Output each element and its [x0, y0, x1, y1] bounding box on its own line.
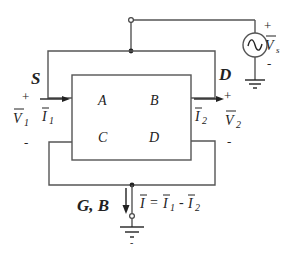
- top-wire: [129, 18, 255, 54]
- ground-icon: [120, 227, 144, 237]
- ac-voltage-source-icon: [243, 33, 267, 88]
- source-voltage-label: V s: [265, 36, 280, 55]
- svg-text:1: 1: [170, 202, 175, 213]
- i2-arrow-icon: [194, 96, 224, 102]
- ground-minus: -: [130, 237, 133, 248]
- source-plus: +: [264, 18, 271, 33]
- region-label-b: B: [150, 93, 159, 108]
- svg-text:V: V: [265, 38, 275, 53]
- ground-current-arrow-icon: [123, 188, 130, 214]
- i1-arrow-icon: [40, 96, 70, 102]
- port2-voltage-label: V 2: [225, 111, 241, 130]
- open-terminal-icon: [129, 18, 134, 23]
- port1-plus: +: [22, 89, 29, 104]
- svg-text:I: I: [41, 109, 48, 124]
- svg-text:1: 1: [24, 117, 29, 128]
- svg-text:I: I: [187, 196, 194, 211]
- port1-current-label: I 1: [41, 108, 54, 126]
- device-box: [72, 75, 191, 160]
- circuit-diagram: A B C D S D G, B + - V 1 I 1 + - I 2 V 2…: [0, 0, 291, 253]
- svg-text:2: 2: [195, 202, 200, 213]
- port1-voltage-label: V 1: [13, 109, 29, 128]
- gate-bulk-wire: [49, 141, 215, 227]
- svg-text:I: I: [139, 196, 146, 211]
- ground-current-equation: I = I 1 - I 2: [139, 195, 200, 213]
- region-label-d: D: [148, 130, 159, 145]
- terminal-label-source: S: [31, 69, 40, 88]
- port2-plus: +: [224, 88, 231, 103]
- terminal-label-drain: D: [218, 65, 231, 84]
- svg-text:2: 2: [202, 115, 207, 126]
- svg-text:1: 1: [49, 115, 54, 126]
- svg-text:=: =: [150, 195, 158, 210]
- svg-text:-: -: [179, 195, 184, 210]
- svg-text:V: V: [225, 113, 235, 128]
- svg-text:I: I: [194, 109, 201, 124]
- terminal-label-gate-bulk: G, B: [77, 196, 109, 215]
- svg-text:V: V: [13, 111, 23, 126]
- open-terminal-icon: [130, 214, 135, 219]
- region-label-c: C: [98, 130, 108, 145]
- port2-current-label: I 2: [194, 108, 207, 126]
- svg-text:s: s: [276, 45, 280, 55]
- region-label-a: A: [97, 93, 107, 108]
- port2-minus: -: [227, 134, 231, 149]
- svg-text:I: I: [162, 196, 169, 211]
- port1-minus: -: [24, 135, 28, 150]
- source-minus: -: [267, 56, 271, 71]
- svg-text:2: 2: [236, 119, 241, 130]
